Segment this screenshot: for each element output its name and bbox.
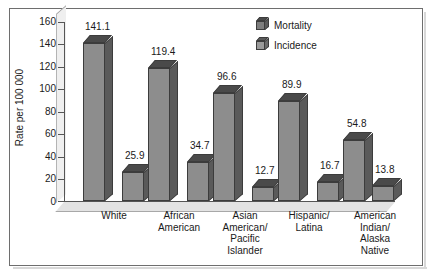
x-category-line: Hispanic/: [272, 210, 346, 222]
x-category-label-american-indian-alaska-native: American Indian/ Alaska Native: [337, 210, 413, 256]
y-tick-mark: [58, 89, 65, 90]
legend-swatch-mortality-icon: [256, 21, 265, 30]
x-category-line: American/: [208, 222, 282, 234]
bar-value-label: 12.7: [255, 166, 274, 176]
bar-side-face: [300, 94, 308, 201]
bar-side-face: [170, 61, 178, 201]
bar-value-label: 13.8: [375, 165, 394, 175]
bar-front-face: [148, 68, 170, 201]
bar-value-label: 141.1: [85, 22, 110, 32]
bar-mortality-african-american[interactable]: [148, 68, 170, 201]
chart-figure: 160 140 120 100 80 60 40 20 0 Rate per 1…: [0, 0, 432, 276]
bar-value-label: 34.7: [190, 141, 209, 151]
x-category-line: Latina: [272, 222, 346, 234]
y-tick-label: 0: [16, 197, 56, 207]
plot-area: 160 140 120 100 80 60 40 20 0 Rate per 1…: [0, 0, 432, 276]
bar-incidence-hispanic-latina[interactable]: [317, 182, 339, 201]
bar-value-label: 96.6: [217, 72, 236, 82]
bar-value-label: 16.7: [320, 161, 339, 171]
bar-side-face: [105, 36, 113, 201]
bar-value-label: 54.8: [347, 119, 366, 129]
y-tick-mark: [58, 157, 65, 158]
x-category-label-white: White: [78, 210, 150, 222]
x-category-line: American: [337, 210, 413, 222]
bar-front-face: [252, 187, 274, 201]
bar-front-face: [317, 182, 339, 201]
bar-mortality-asian-american-pacific-islander[interactable]: [213, 93, 235, 201]
y-tick-label: 160: [16, 17, 56, 27]
legend-label: Incidence: [274, 40, 317, 51]
x-axis-line: [64, 201, 395, 202]
y-tick-label: 20: [16, 174, 56, 184]
x-category-line: Asian: [208, 210, 282, 222]
bar-incidence-asian-american-pacific-islander[interactable]: [252, 187, 274, 201]
y-axis-title: Rate per 100 000: [14, 48, 25, 168]
bar-incidence-american-indian-alaska-native[interactable]: [372, 186, 394, 201]
bar-front-face: [213, 93, 235, 201]
x-category-line: Indian/: [337, 222, 413, 234]
x-category-line: American: [142, 222, 216, 234]
bar-mortality-white[interactable]: [83, 43, 105, 201]
x-category-label-african-american: African American: [142, 210, 216, 233]
bar-incidence-african-american[interactable]: [187, 162, 209, 201]
x-category-label-hispanic-latina: Hispanic/ Latina: [272, 210, 346, 233]
bar-front-face: [187, 162, 209, 201]
legend-swatch-incidence-icon: [256, 41, 265, 50]
x-category-line: Pacific: [208, 233, 282, 245]
y-tick-mark: [58, 134, 65, 135]
bar-value-label: 119.4: [151, 47, 175, 57]
bar-value-label: 25.9: [125, 151, 144, 161]
y-tick-mark: [58, 22, 65, 23]
legend-label: Mortality: [274, 20, 312, 31]
x-category-line: African: [142, 210, 216, 222]
bar-mortality-hispanic-latina[interactable]: [278, 101, 300, 201]
bar-front-face: [372, 186, 394, 201]
bar-front-face: [122, 172, 144, 201]
y-tick-mark: [58, 44, 65, 45]
bar-incidence-white[interactable]: [122, 172, 144, 201]
y-tick-mark: [58, 67, 65, 68]
x-category-label-asian-american-pacific-islander: Asian American/ Pacific Islander: [208, 210, 282, 256]
bar-front-face: [278, 101, 300, 201]
legend-swatch-front: [256, 21, 265, 30]
bar-front-face: [83, 43, 105, 201]
bar-front-face: [343, 140, 365, 201]
x-category-line: Islander: [208, 245, 282, 257]
bar-side-face: [235, 86, 243, 201]
bar-value-label: 89.9: [282, 80, 301, 90]
x-category-line: Alaska: [337, 233, 413, 245]
y-tick-mark: [58, 179, 65, 180]
x-category-line: White: [78, 210, 150, 222]
legend-swatch-front: [256, 41, 265, 50]
x-category-line: Native: [337, 245, 413, 257]
bar-mortality-american-indian-alaska-native[interactable]: [343, 140, 365, 201]
y-tick-mark: [58, 201, 65, 202]
y-tick-mark: [58, 112, 65, 113]
